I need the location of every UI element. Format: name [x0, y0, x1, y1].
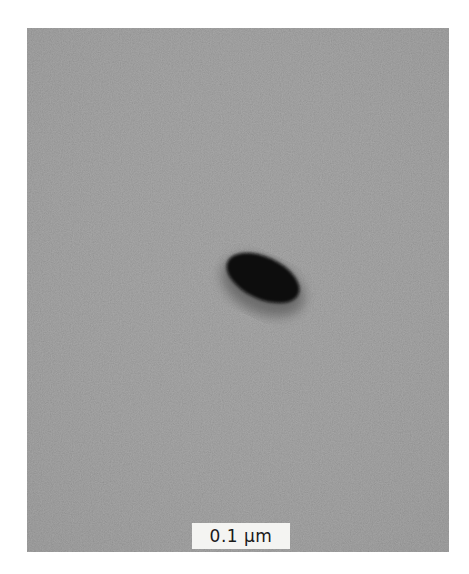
scale-bar-label: 0.1 μm — [192, 523, 290, 549]
micrograph-image — [27, 28, 449, 552]
micrograph-texture — [27, 28, 449, 552]
